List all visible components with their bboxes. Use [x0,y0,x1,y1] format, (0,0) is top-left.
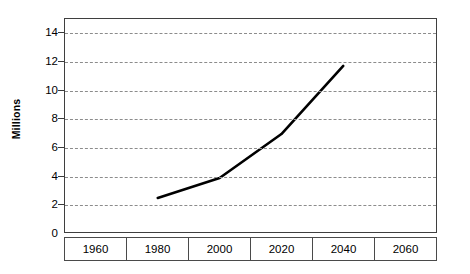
gridline [65,33,436,34]
line-chart: Millions 02468101214 1960198020002020204… [0,0,470,274]
y-axis-tick-mark [58,147,64,148]
y-axis-tick-mark [58,204,64,205]
y-axis-tick-label: 12 [30,55,58,67]
y-axis-tick-mark [58,118,64,119]
y-axis-tick-mark [58,176,64,177]
y-axis-tick-label: 8 [30,112,58,124]
gridline [65,205,436,206]
series-polyline [158,66,344,198]
x-axis-category-cell: 1960 [65,238,127,260]
y-axis-tick-label: 6 [30,141,58,153]
y-axis-tick-label: 14 [30,26,58,38]
y-axis-tick-labels: 02468101214 [30,18,58,233]
y-axis-tick-mark [58,61,64,62]
x-axis-category-cell: 2040 [313,238,375,260]
x-axis-category-table: 196019802000202020402060 [64,237,437,261]
y-axis-title: Millions [5,87,27,151]
y-axis-tick-label: 4 [30,170,58,182]
y-axis-tick-mark [58,90,64,91]
y-axis-tick-label: 0 [30,227,58,239]
x-axis-category-cell: 2020 [251,238,313,260]
gridline [65,91,436,92]
gridline [65,62,436,63]
series-line [65,19,436,232]
y-axis-tick-label: 10 [30,84,58,96]
x-axis-category-cell: 1980 [127,238,189,260]
x-axis-category-cell: 2000 [189,238,251,260]
gridline [65,148,436,149]
plot-area [64,18,437,233]
gridline [65,177,436,178]
y-axis-tick-label: 2 [30,198,58,210]
x-axis-category-cell: 2060 [375,238,436,260]
y-axis-tick-mark [58,32,64,33]
gridline [65,119,436,120]
